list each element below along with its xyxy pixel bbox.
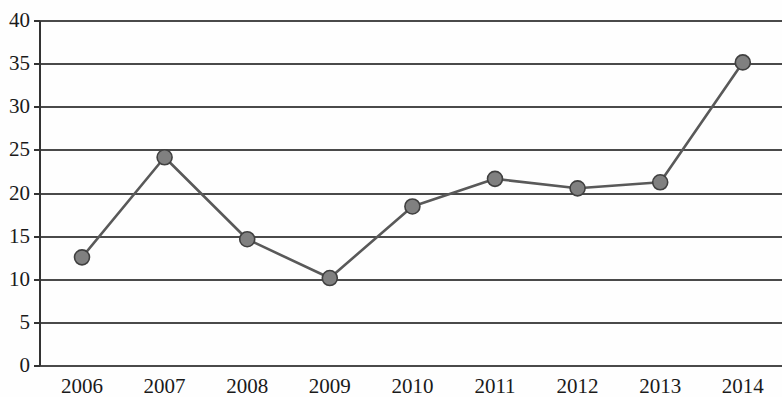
series-polyline: [82, 62, 743, 278]
data-point-2014: [735, 55, 750, 70]
chart-plot-area: [0, 0, 782, 397]
data-point-2007: [157, 150, 172, 165]
data-point-2006: [75, 250, 90, 265]
series-line: [82, 62, 743, 278]
data-point-2012: [570, 181, 585, 196]
data-point-2009: [322, 271, 337, 286]
data-point-2013: [653, 175, 668, 190]
data-point-2011: [488, 171, 503, 186]
gridlines-group: [40, 21, 782, 366]
line-chart: 0510152025303540 20062007200820092010201…: [0, 0, 782, 397]
data-point-2010: [405, 199, 420, 214]
data-point-2008: [240, 232, 255, 247]
